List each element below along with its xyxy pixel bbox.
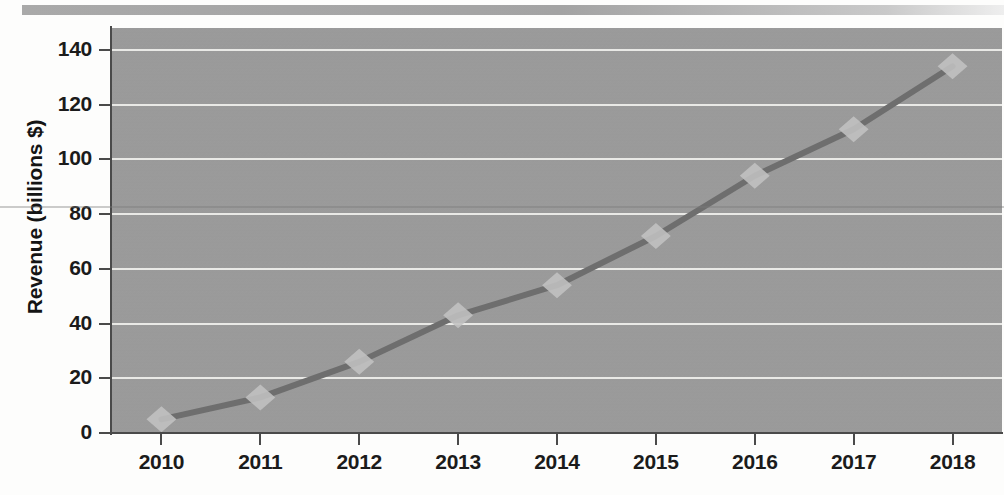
y-axis-line	[110, 26, 112, 435]
x-tick-2011	[259, 433, 261, 445]
revenue-marker-group	[146, 53, 967, 432]
y-axis-title: Revenue (billions $)	[23, 52, 47, 382]
data-point-2011	[245, 384, 275, 410]
page-header-band	[22, 5, 1004, 15]
y-tick-140	[99, 49, 110, 51]
x-tick-label-2012: 2012	[314, 450, 404, 474]
y-tick-40	[99, 323, 110, 325]
x-tick-label-2018: 2018	[908, 450, 998, 474]
plot-area	[112, 28, 1002, 433]
x-tick-label-2017: 2017	[809, 450, 899, 474]
x-tick-2012	[358, 433, 360, 445]
figure-root: 020406080100120140 201020112012201320142…	[0, 0, 1004, 495]
y-tick-60	[99, 268, 110, 270]
y-tick-120	[99, 104, 110, 106]
data-point-2014	[542, 272, 572, 298]
y-tick-label-0: 0	[36, 420, 92, 444]
x-tick-label-2011: 2011	[215, 450, 305, 474]
y-tick-0	[99, 432, 110, 434]
x-tick-2018	[952, 433, 954, 445]
x-tick-2015	[655, 433, 657, 445]
x-tick-2014	[556, 433, 558, 445]
x-tick-2013	[457, 433, 459, 445]
x-tick-2010	[160, 433, 162, 445]
y-tick-100	[99, 158, 110, 160]
x-tick-label-2014: 2014	[512, 450, 602, 474]
data-point-2012	[344, 349, 374, 375]
y-tick-20	[99, 377, 110, 379]
x-tick-2016	[754, 433, 756, 445]
revenue-line	[161, 66, 952, 419]
x-tick-label-2016: 2016	[710, 450, 800, 474]
x-tick-label-2010: 2010	[116, 450, 206, 474]
x-tick-label-2013: 2013	[413, 450, 503, 474]
x-tick-label-2015: 2015	[611, 450, 701, 474]
series-layer	[112, 28, 1002, 433]
data-point-2010	[146, 406, 176, 432]
data-point-2013	[443, 302, 473, 328]
y-tick-80	[99, 213, 110, 215]
x-tick-2017	[853, 433, 855, 445]
